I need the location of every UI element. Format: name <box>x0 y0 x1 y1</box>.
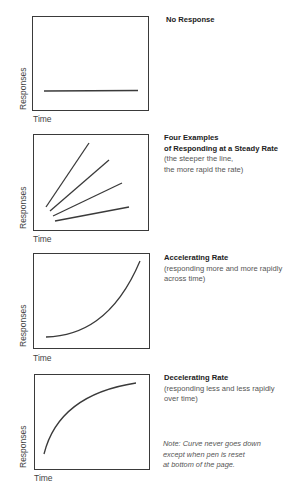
caption-sub: (responding less and less rapidly <box>164 384 275 395</box>
caption-sub: over time) <box>164 394 275 405</box>
note: Note: Curve never goes down except when … <box>163 439 261 471</box>
note-line: except when pen is reset <box>163 450 261 461</box>
x-axis-label: Time <box>34 473 53 483</box>
y-axis-label: Responses <box>18 425 28 468</box>
caption-title: Decelerating Rate <box>164 373 275 384</box>
caption: Decelerating Rate (responding less and l… <box>164 373 275 405</box>
note-line: Note: Curve never goes down <box>163 439 261 450</box>
note-line: at bottom of the page. <box>163 460 261 471</box>
decelerating-curve <box>0 0 298 496</box>
